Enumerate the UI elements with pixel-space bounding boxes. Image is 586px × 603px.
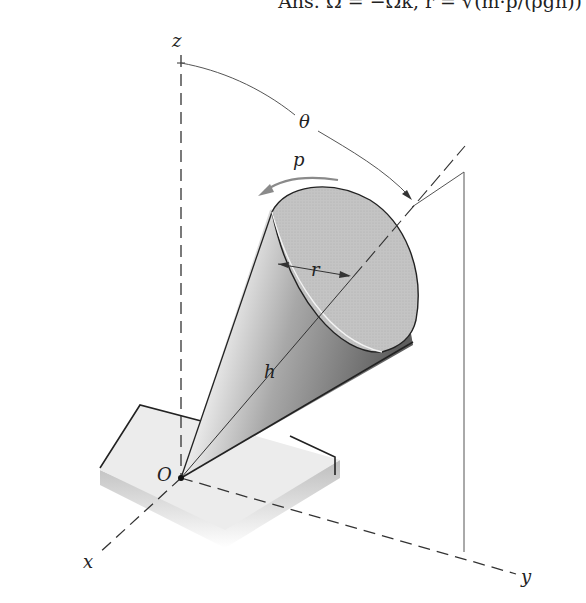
h-label: h [264,361,276,382]
origin-label: O [157,464,172,485]
p-label: p [293,149,305,170]
vertical-plane-line [412,172,464,552]
r-label: r [311,259,321,280]
cone-diagram: z x y O θ p r h [0,0,586,603]
cone [181,187,418,478]
z-label: z [171,30,182,51]
theta-label: θ [299,111,310,132]
origin-point [178,475,184,481]
y-label: y [520,566,532,587]
x-label: x [83,551,93,572]
